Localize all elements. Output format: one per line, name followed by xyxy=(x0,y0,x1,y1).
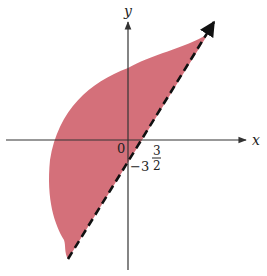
y-axis-label: y xyxy=(123,3,133,19)
origin-label: 0 xyxy=(117,141,125,156)
y-intercept-label: −3 xyxy=(130,159,149,174)
x-intercept-denominator: 2 xyxy=(153,159,161,173)
x-axis-label: x xyxy=(252,132,260,148)
graph-canvas: y x 0 −3 3 2 xyxy=(0,0,267,276)
x-intercept-label: 3 2 xyxy=(152,144,161,173)
x-intercept-numerator: 3 xyxy=(153,144,161,158)
